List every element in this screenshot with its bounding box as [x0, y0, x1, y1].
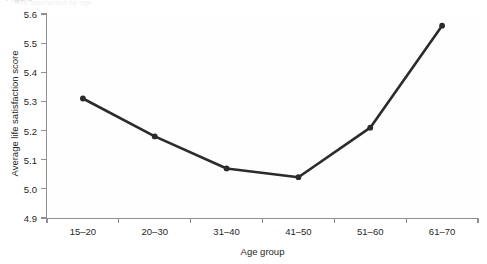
- data-point-marker: [152, 134, 158, 140]
- x-axis-title: Age group: [47, 246, 478, 257]
- data-point-marker: [439, 23, 445, 29]
- data-line-average-life-satisfaction-score: [83, 26, 442, 178]
- data-point-marker: [296, 174, 302, 180]
- data-point-marker: [80, 96, 86, 102]
- line-series-svg: [0, 0, 487, 264]
- data-point-marker: [367, 125, 373, 131]
- data-point-marker: [224, 166, 230, 172]
- chart-page: Figure life satisfaction by age Average …: [0, 0, 487, 264]
